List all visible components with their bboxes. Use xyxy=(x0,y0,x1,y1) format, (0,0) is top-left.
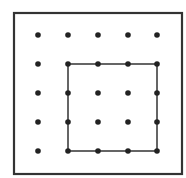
grid-dot xyxy=(154,90,160,96)
dot-grid xyxy=(35,32,160,154)
square-shape xyxy=(68,64,157,151)
grid-dot xyxy=(95,148,101,154)
grid-dot xyxy=(95,61,101,67)
grid-dot xyxy=(125,90,131,96)
grid-dot xyxy=(65,119,71,125)
grid-dot xyxy=(35,148,41,154)
grid-dot xyxy=(65,90,71,96)
grid-dot xyxy=(65,32,71,38)
grid-dot xyxy=(125,32,131,38)
grid-dot xyxy=(35,61,41,67)
grid-dot xyxy=(65,148,71,154)
grid-dot xyxy=(95,119,101,125)
grid-dot xyxy=(95,90,101,96)
grid-dot xyxy=(154,148,160,154)
grid-dot xyxy=(125,148,131,154)
grid-dot xyxy=(125,119,131,125)
grid-dot xyxy=(35,119,41,125)
geoboard-diagram xyxy=(0,0,186,178)
grid-dot xyxy=(35,32,41,38)
grid-dot xyxy=(154,61,160,67)
grid-dot xyxy=(154,32,160,38)
grid-dot xyxy=(125,61,131,67)
grid-dot xyxy=(154,119,160,125)
grid-dot xyxy=(65,61,71,67)
grid-dot xyxy=(35,90,41,96)
grid-dot xyxy=(95,32,101,38)
